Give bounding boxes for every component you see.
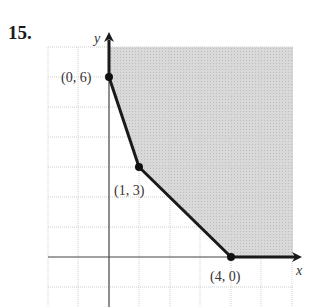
vertex-point <box>227 253 235 261</box>
vertex-label: (4, 0) <box>210 269 241 285</box>
x-axis-label: x <box>295 263 303 278</box>
vertex-point <box>135 163 143 171</box>
vertex-label: (1, 3) <box>114 183 145 199</box>
feasible-region-graph: (0, 6) (1, 3) (4, 0) x y <box>0 0 325 307</box>
shaded-region <box>109 47 293 257</box>
y-axis-label: y <box>92 31 101 46</box>
vertex-point <box>105 73 113 81</box>
vertex-label: (0, 6) <box>61 70 92 86</box>
